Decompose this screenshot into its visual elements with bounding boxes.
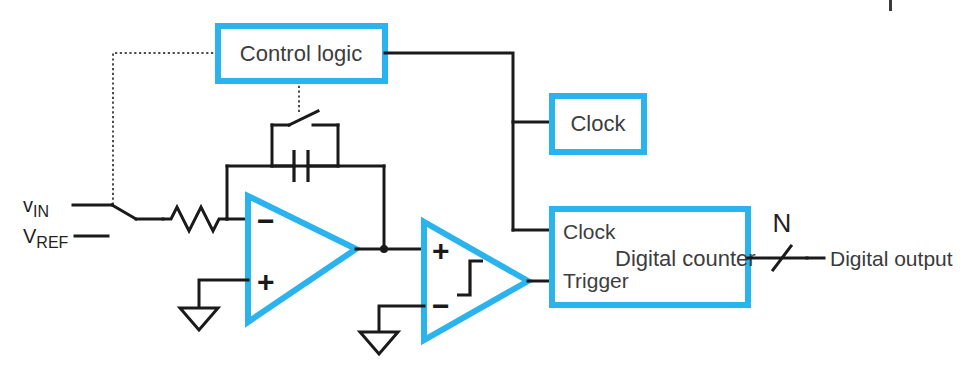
clock-label: Clock: [570, 111, 626, 136]
integrator-noninverting-sign: +: [257, 265, 275, 298]
schematic-canvas: − + + −: [0, 0, 966, 372]
v-in-label: vIN: [23, 194, 49, 220]
integrator-output-wire: [356, 245, 424, 253]
integrator-input-node-wire: [227, 166, 248, 219]
comparator-noninverting-sign: +: [432, 234, 450, 267]
v-ref-label: VREF: [23, 225, 69, 251]
comparator-ground-wire: [379, 306, 424, 332]
counter-clock-pin-label: Clock: [563, 220, 616, 243]
digital-output-bus-wire: [748, 246, 824, 270]
circuit-diagram: − + + −: [0, 0, 966, 372]
reset-switch[interactable]: [272, 111, 338, 166]
comparator-inverting-sign: −: [432, 289, 450, 322]
integrator-inverting-sign: −: [257, 204, 275, 237]
comparator-ground-symbol: [360, 332, 398, 354]
digital-counter-label: Digital counter: [615, 246, 756, 271]
corner-tick-mark: [889, 0, 892, 11]
control-to-input-switch-dotted-wire: [113, 53, 218, 205]
control-logic-output-wire: [385, 53, 552, 230]
integrator-ground-wire: [199, 280, 248, 308]
integrator-output-junction: [380, 245, 388, 253]
digital-output-label: Digital output: [830, 247, 953, 270]
input-select-switch[interactable]: [73, 205, 163, 236]
counter-trigger-pin-label: Trigger: [563, 269, 629, 292]
resistor: [163, 207, 227, 231]
integrator-ground-symbol: [180, 308, 218, 330]
bus-width-label: N: [773, 208, 792, 238]
control-logic-label: Control logic: [240, 41, 362, 66]
